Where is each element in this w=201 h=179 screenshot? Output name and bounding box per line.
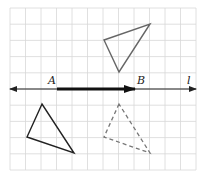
translation-diagram: A B l — [0, 0, 201, 179]
lower-dashed-triangle — [104, 104, 150, 153]
label-b: B — [136, 74, 145, 87]
lower-solid-triangle — [27, 104, 74, 153]
label-a: A — [47, 74, 56, 87]
label-l: l — [187, 74, 191, 87]
upper-triangle — [104, 24, 150, 72]
